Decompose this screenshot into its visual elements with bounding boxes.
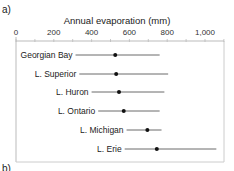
mean-dot	[113, 53, 117, 57]
category-label: L. Ontario	[58, 106, 96, 116]
x-tick-label: 400	[85, 28, 99, 37]
category-label: L. Erie	[97, 144, 122, 154]
mean-dot	[117, 90, 121, 94]
mean-dot	[114, 72, 118, 76]
range-chart: 02004006008001,000Georgian BayL. Superio…	[0, 0, 234, 171]
x-tick-label: 800	[161, 28, 175, 37]
category-label: L. Michigan	[80, 125, 124, 135]
x-tick-label: 1,000	[195, 28, 216, 37]
x-tick-label: 600	[123, 28, 137, 37]
mean-dot	[155, 147, 159, 151]
category-label: L. Superior	[35, 69, 77, 79]
mean-dot	[145, 128, 149, 132]
x-tick-label: 200	[47, 28, 61, 37]
category-label: Georgian Bay	[21, 50, 74, 60]
x-tick-label: 0	[14, 28, 19, 37]
category-label: L. Huron	[56, 87, 89, 97]
mean-dot	[122, 109, 126, 113]
